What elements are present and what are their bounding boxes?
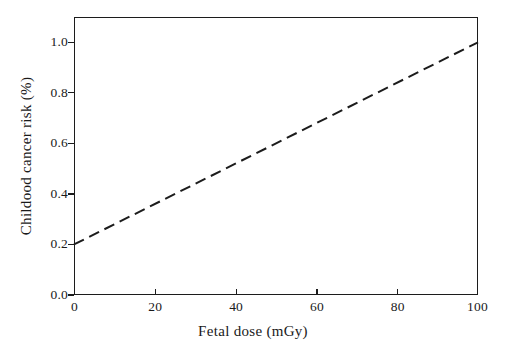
xtick-mark-0 [74,289,75,295]
ytick-label-4: 0.8 [51,86,68,100]
ytick-mark-3 [68,143,74,144]
ytick-label-1: 0.2 [51,237,68,251]
xtick-label-1: 20 [148,300,162,314]
ytick-label-3: 0.6 [51,136,68,150]
xtick-label-0: 0 [71,300,78,314]
ytick-mark-1 [68,244,74,245]
plot-data-layer [74,17,478,295]
xtick-mark-3 [316,289,317,295]
xtick-mark-2 [236,289,237,295]
xtick-mark-1 [155,289,156,295]
ytick-mark-5 [68,42,74,43]
ytick-label-5: 1.0 [51,35,68,49]
x-axis-label: Fetal dose (mGy) [0,323,506,340]
xtick-mark-5 [477,289,478,295]
chart-figure: 0.0 0.2 0.4 0.6 0.8 1.0 0 20 40 60 80 10… [0,0,506,351]
ytick-mark-4 [68,92,74,93]
ytick-label-2: 0.4 [51,187,68,201]
ytick-mark-2 [68,193,74,194]
xtick-mark-4 [397,289,398,295]
y-axis-label: Childood cancer risk (%) [14,17,38,295]
xtick-label-5: 100 [467,300,488,314]
ytick-label-0: 0.0 [51,288,68,302]
xtick-label-3: 60 [310,300,324,314]
xtick-label-2: 40 [229,300,243,314]
series-line-childhood-cancer-risk [74,42,478,244]
xtick-label-4: 80 [391,300,405,314]
